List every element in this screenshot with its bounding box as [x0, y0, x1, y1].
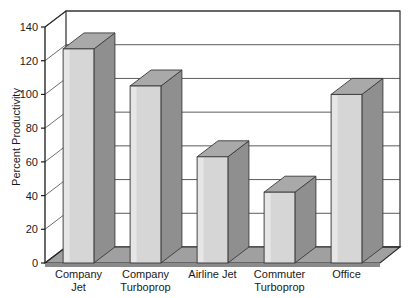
bar [130, 70, 182, 263]
category-label: Office [332, 268, 361, 280]
category-label: Jet [71, 281, 86, 293]
bar-chart-3d: 020406080100120140 CompanyJetCompanyTurb… [0, 0, 408, 298]
bar [331, 78, 383, 263]
y-axis-tick-label: 40 [26, 190, 38, 202]
chart-container: 020406080100120140 CompanyJetCompanyTurb… [0, 0, 408, 298]
category-label: Airline Jet [188, 268, 236, 280]
bar [197, 141, 249, 263]
category-label: Commuter [254, 268, 306, 280]
bar-highlight [265, 193, 271, 262]
y-axis-tick-label: 20 [26, 223, 38, 235]
category-label: Turboprop [254, 281, 304, 293]
bar-side-face [362, 78, 383, 263]
y-axis-tick-label: 100 [20, 88, 38, 100]
bar-side-face [228, 141, 249, 263]
y-axis-tick-label: 80 [26, 122, 38, 134]
category-label: Turboprop [120, 281, 170, 293]
bar-side-face [94, 33, 115, 263]
bar-highlight [198, 158, 204, 262]
floor-front-edge [45, 263, 380, 267]
bar-highlight [131, 87, 137, 262]
y-axis-tick-label: 60 [26, 156, 38, 168]
bar-side-face [161, 70, 182, 263]
y-axis-tick-label: 120 [20, 55, 38, 67]
y-axis-tick-label: 0 [32, 257, 38, 269]
bar-highlight [332, 95, 338, 262]
y-axis-tick-label: 140 [20, 21, 38, 33]
category-label: Company [55, 268, 103, 280]
bar-highlight [64, 50, 70, 262]
category-label: Company [122, 268, 170, 280]
y-axis-title: Percent Productivity [10, 88, 22, 186]
bar [264, 176, 316, 263]
bar [63, 33, 115, 263]
